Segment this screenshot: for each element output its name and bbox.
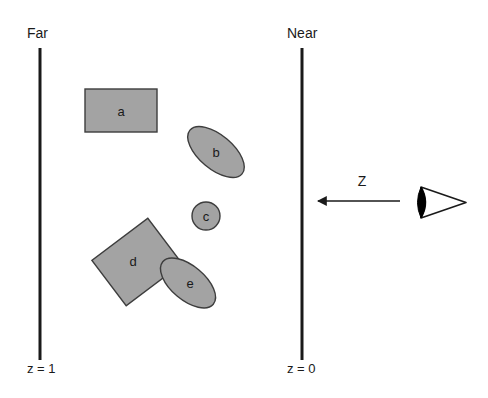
eye-cone-icon [421,187,466,218]
far-plane-group: Far z = 1 [27,25,56,376]
shape-a-label: a [117,104,125,119]
shape-b: b [179,117,253,187]
shape-d-label: d [129,254,136,269]
diagram-canvas: Far z = 1 Near z = 0 abcde Z [0,0,488,398]
scene-shapes: abcde [85,89,253,317]
far-plane-depth-label: z = 1 [27,361,56,376]
shape-c-label: c [203,209,210,224]
shape-c: c [192,202,220,230]
near-plane-label: Near [287,25,318,41]
z-axis-label: Z [358,173,367,189]
depth-diagram: Far z = 1 Near z = 0 abcde Z [0,0,488,398]
z-axis-arrow-group: Z [318,173,400,201]
near-plane-group: Near z = 0 [287,25,318,376]
near-plane-depth-label: z = 0 [287,361,316,376]
viewer-eye-icon [418,187,467,218]
shape-a: a [85,89,157,132]
shape-b-label: b [212,145,219,160]
far-plane-label: Far [27,25,48,41]
shape-e-label: e [186,276,193,291]
